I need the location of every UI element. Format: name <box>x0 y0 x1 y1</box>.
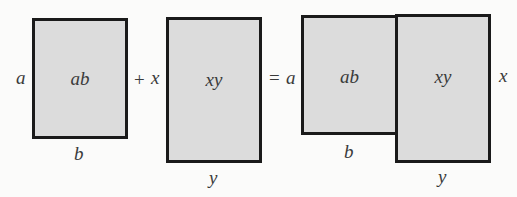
height-label-a: a <box>16 68 26 87</box>
combined-width-label-b: b <box>344 142 354 161</box>
area-label-ab: ab <box>35 69 125 88</box>
plus-operator: + <box>134 70 145 89</box>
height-label-x: x <box>151 68 159 87</box>
combined-height-label-a: a <box>286 68 296 87</box>
combined-height-label-x: x <box>499 66 507 85</box>
width-label-b: b <box>74 144 84 163</box>
combined-rectangle-xy: xy <box>395 14 491 163</box>
equals-operator: = <box>269 68 280 87</box>
combined-width-label-y: y <box>438 167 446 186</box>
combined-area-label-xy: xy <box>398 67 488 86</box>
area-label-xy: xy <box>169 70 259 89</box>
combined-rectangle-ab: ab <box>301 15 398 135</box>
rectangle-ab: ab <box>32 18 128 139</box>
width-label-y: y <box>209 168 217 187</box>
rectangle-xy: xy <box>166 17 262 163</box>
combined-area-label-ab: ab <box>304 67 395 86</box>
